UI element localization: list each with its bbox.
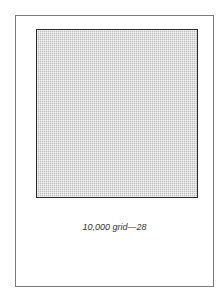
figure-caption: 10,000 grid—28 [15,222,214,232]
grid-image [36,29,198,198]
